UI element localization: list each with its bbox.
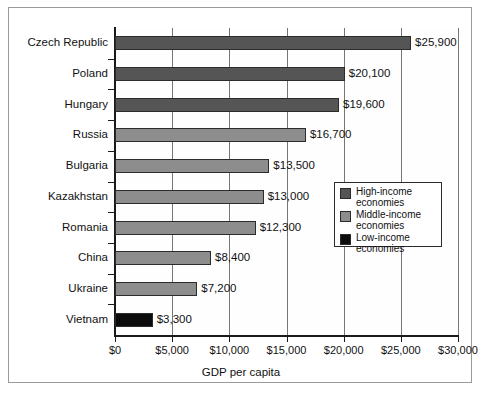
bar-value-label: $20,100 bbox=[349, 67, 391, 80]
legend-item: Low-incomeeconomies bbox=[340, 233, 436, 254]
x-axis-tick-label: $30,000 bbox=[438, 344, 478, 356]
x-axis-tick bbox=[287, 337, 288, 342]
bar bbox=[115, 251, 211, 265]
bar bbox=[115, 98, 339, 112]
y-axis-tick bbox=[108, 120, 115, 121]
x-axis-title: GDP per capita bbox=[9, 366, 473, 378]
bar bbox=[115, 36, 411, 50]
category-label: Bulgaria bbox=[9, 159, 108, 171]
chart-screenshot: Czech RepublicPolandHungaryRussiaBulgari… bbox=[0, 0, 482, 394]
gridline bbox=[458, 28, 459, 335]
bar-value-label: $13,000 bbox=[268, 190, 310, 203]
y-axis-tick bbox=[108, 304, 115, 305]
bar-value-label: $16,700 bbox=[310, 128, 352, 141]
bar-value-label: $13,500 bbox=[273, 159, 315, 172]
legend-rows-group: High-incomeeconomiesMiddle-incomeeconomi… bbox=[340, 187, 436, 254]
bar-value-label: $3,300 bbox=[157, 313, 192, 326]
legend-swatch-icon bbox=[340, 234, 351, 245]
bar bbox=[115, 159, 269, 173]
x-axis-tick-label: $15,000 bbox=[267, 344, 307, 356]
x-axis-tick-label: $5,000 bbox=[155, 344, 189, 356]
legend-label: Middle-incomeeconomies bbox=[356, 210, 421, 231]
bar bbox=[115, 128, 306, 142]
bar-value-label: $8,400 bbox=[215, 251, 250, 264]
y-axis-tick bbox=[108, 182, 115, 183]
bar-value-label: $12,300 bbox=[260, 221, 302, 234]
y-axis-tick bbox=[108, 212, 115, 213]
x-axis-tick bbox=[172, 337, 173, 342]
legend: High-incomeeconomiesMiddle-incomeeconomi… bbox=[334, 182, 442, 247]
y-axis-tick bbox=[108, 151, 115, 152]
y-axis-tick bbox=[108, 243, 115, 244]
bar-value-label: $7,200 bbox=[201, 282, 236, 295]
x-axis-tick bbox=[401, 337, 402, 342]
category-label: Hungary bbox=[9, 98, 108, 110]
legend-label: High-incomeeconomies bbox=[356, 187, 412, 208]
bar bbox=[115, 221, 256, 235]
x-axis-tick bbox=[229, 337, 230, 342]
x-axis-tick bbox=[115, 337, 116, 342]
x-axis-tick-label: $0 bbox=[109, 344, 121, 356]
category-label: Russia bbox=[9, 128, 108, 140]
x-axis-tick bbox=[344, 337, 345, 342]
category-label: Czech Republic bbox=[9, 36, 108, 48]
x-axis-tick-label: $10,000 bbox=[209, 344, 249, 356]
bar bbox=[115, 190, 264, 204]
category-label: Poland bbox=[9, 67, 108, 79]
category-label: Kazakhstan bbox=[9, 190, 108, 202]
x-axis-tick bbox=[458, 337, 459, 342]
legend-label: Low-incomeeconomies bbox=[356, 233, 410, 254]
legend-swatch-icon bbox=[340, 211, 351, 222]
category-label: China bbox=[9, 251, 108, 263]
x-axis-tick-label: $20,000 bbox=[324, 344, 364, 356]
bar bbox=[115, 282, 197, 296]
category-label: Vietnam bbox=[9, 313, 108, 325]
bar-value-label: $25,900 bbox=[415, 36, 457, 49]
x-axis-tick-label: $25,000 bbox=[381, 344, 421, 356]
y-axis-tick bbox=[108, 59, 115, 60]
category-label: Romania bbox=[9, 221, 108, 233]
figure-frame: Czech RepublicPolandHungaryRussiaBulgari… bbox=[8, 7, 472, 383]
bar bbox=[115, 67, 345, 81]
bar bbox=[115, 313, 153, 327]
legend-item: High-incomeeconomies bbox=[340, 187, 436, 208]
y-axis-tick bbox=[108, 274, 115, 275]
category-label: Ukraine bbox=[9, 282, 108, 294]
bar-value-label: $19,600 bbox=[343, 98, 385, 111]
y-axis-tick bbox=[108, 89, 115, 90]
legend-swatch-icon bbox=[340, 188, 351, 199]
legend-item: Middle-incomeeconomies bbox=[340, 210, 436, 231]
